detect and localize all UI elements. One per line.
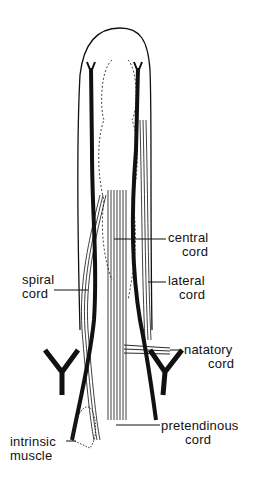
natatory-cord-line2: cord xyxy=(184,357,234,371)
pretendinous-cord-line1: pretendinous xyxy=(161,419,239,433)
central-cord-fibers xyxy=(108,190,126,420)
spiral-cord-line1: spiral xyxy=(22,273,54,287)
natatory-cord-line1: natatory xyxy=(184,343,234,357)
intrinsic-muscle-line2: muscle xyxy=(10,449,56,463)
label-spiral-cord: spiral cord xyxy=(22,273,54,301)
right-web-vessel xyxy=(150,350,182,395)
intrinsic-muscle-line1: intrinsic xyxy=(10,435,56,449)
pretendinous-cord-line2: cord xyxy=(161,433,239,447)
phalanx-outline xyxy=(99,60,138,300)
label-central-cord: central cord xyxy=(168,231,208,259)
left-neurovascular-bundle xyxy=(72,68,95,440)
label-lateral-cord: lateral cord xyxy=(168,274,205,302)
label-natatory-cord: natatory cord xyxy=(184,343,234,371)
spiral-cord-line2: cord xyxy=(22,287,54,301)
left-web-vessel xyxy=(45,350,78,395)
label-pretendinous-cord: pretendinous cord xyxy=(161,419,239,447)
lateral-cord-fibers xyxy=(140,120,151,340)
central-cord-line1: central xyxy=(168,231,208,245)
lateral-cord-line1: lateral xyxy=(168,274,205,288)
right-neurovascular-bundle xyxy=(133,68,156,420)
label-intrinsic-muscle: intrinsic muscle xyxy=(10,435,56,463)
finger-diagram xyxy=(0,0,259,486)
central-cord-line2: cord xyxy=(168,245,208,259)
lateral-cord-line2: cord xyxy=(168,288,205,302)
